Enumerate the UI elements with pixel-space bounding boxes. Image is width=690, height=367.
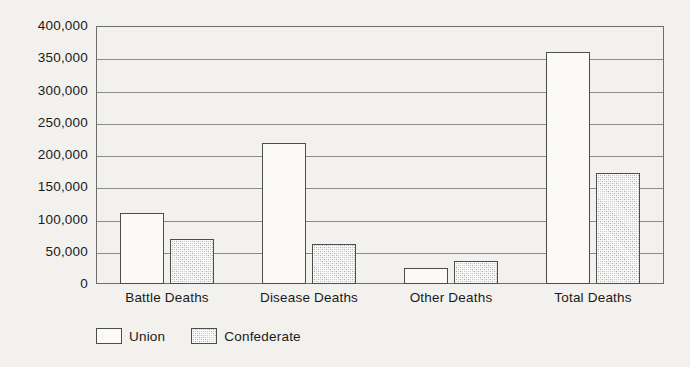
- y-axis-tick-label: 150,000: [2, 181, 88, 195]
- bar-union-other-deaths: [404, 268, 448, 284]
- bar-confederate-battle-deaths: [170, 239, 214, 284]
- x-axis-tick-label: Disease Deaths: [260, 290, 358, 305]
- bar-confederate-total-deaths: [596, 173, 640, 284]
- y-axis: 400,000350,000300,000250,000200,000150,0…: [0, 0, 88, 367]
- legend-label: Confederate: [224, 329, 301, 344]
- legend-label: Union: [129, 329, 165, 344]
- x-axis-tick-label: Total Deaths: [554, 290, 631, 305]
- bar-confederate-disease-deaths: [312, 244, 356, 284]
- bar-union-total-deaths: [546, 52, 590, 284]
- y-axis-tick-label: 50,000: [2, 245, 88, 259]
- y-axis-tick-label: 100,000: [2, 213, 88, 227]
- legend-item-confederate: Confederate: [191, 328, 301, 344]
- bar-confederate-other-deaths: [454, 261, 498, 284]
- y-axis-tick-label: 0: [2, 277, 88, 291]
- bar-union-battle-deaths: [120, 213, 164, 284]
- bar-union-disease-deaths: [262, 143, 306, 284]
- legend-swatch-union: [96, 328, 122, 344]
- y-axis-tick-label: 400,000: [2, 19, 88, 33]
- y-axis-tick-label: 350,000: [2, 52, 88, 66]
- x-axis-category-labels: Battle DeathsDisease DeathsOther DeathsT…: [96, 290, 664, 312]
- bars-layer: [96, 26, 664, 284]
- legend-swatch-confederate: [191, 328, 217, 344]
- x-axis-tick-label: Battle Deaths: [125, 290, 209, 305]
- chart-legend: UnionConfederate: [96, 328, 301, 344]
- y-axis-tick-label: 300,000: [2, 84, 88, 98]
- bar-chart: 400,000350,000300,000250,000200,000150,0…: [0, 0, 690, 367]
- legend-item-union: Union: [96, 328, 165, 344]
- y-axis-tick-label: 250,000: [2, 116, 88, 130]
- x-axis-tick-label: Other Deaths: [410, 290, 493, 305]
- y-axis-tick-label: 200,000: [2, 148, 88, 162]
